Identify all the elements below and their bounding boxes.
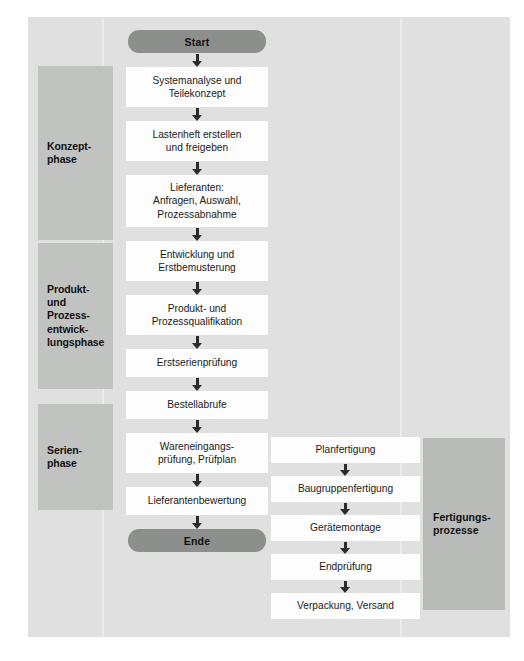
node-label: Wareneingangs- prüfung, Prüfplan xyxy=(158,440,236,467)
node-lieferantenbewertung: Lieferantenbewertung xyxy=(126,487,268,515)
node-entwicklung-erstbemusterung: Entwicklung und Erstbemusterung xyxy=(126,241,268,281)
node-lastenheft: Lastenheft erstellen und freigeben xyxy=(126,121,268,161)
node-label: Planfertigung xyxy=(315,443,375,456)
node-label: Bestellabrufe xyxy=(167,398,226,411)
phase-label-serien: Serien- phase xyxy=(47,444,82,470)
group-label-fertigungsprozesse: Fertigungs- prozesse xyxy=(433,511,491,537)
connector-n6-to-n7 xyxy=(192,378,203,391)
node-geraetemontage: Gerätemontage xyxy=(271,515,420,541)
node-wareneingangspruefung: Wareneingangs- prüfung, Prüfplan xyxy=(126,433,268,473)
node-produkt-prozessqualifikation: Produkt- und Prozessqualifikation xyxy=(126,295,268,335)
phase-band-serien: Serien- phase xyxy=(38,404,113,510)
node-label: Gerätemontage xyxy=(310,521,381,534)
group-band-fertigungsprozesse: Fertigungs- prozesse xyxy=(423,438,505,610)
node-label: Lastenheft erstellen und freigeben xyxy=(153,128,242,155)
phase-band-entwicklung: Produkt- und Prozess- entwick- lungsphas… xyxy=(38,243,113,389)
connector-start-to-n1 xyxy=(192,54,203,67)
node-label: Lieferantenbewertung xyxy=(148,494,247,507)
node-verpackung-versand: Verpackung, Versand xyxy=(271,593,420,619)
node-erstserienpruefung: Erstserienprüfung xyxy=(126,349,268,377)
node-systemanalyse: Systemanalyse und Teilekonzept xyxy=(126,67,268,107)
node-label: Erstserienprüfung xyxy=(157,356,237,369)
connector-p3-to-p4 xyxy=(340,542,351,554)
terminator-end: Ende xyxy=(128,529,266,552)
node-lieferanten: Lieferanten: Anfragen, Auswahl, Prozessa… xyxy=(126,175,268,227)
terminator-start: Start xyxy=(128,30,266,53)
phase-band-konzept: Konzept- phase xyxy=(38,66,113,240)
phase-label-konzept: Konzept- phase xyxy=(47,140,91,166)
phase-label-entwicklung: Produkt- und Prozess- entwick- lungsphas… xyxy=(47,283,104,349)
node-baugruppenfertigung: Baugruppenfertigung xyxy=(271,476,420,502)
connector-n1-to-n2 xyxy=(192,108,203,121)
node-label: Baugruppenfertigung xyxy=(298,482,393,495)
connector-n8-to-n9 xyxy=(192,474,203,487)
connector-p4-to-p5 xyxy=(340,581,351,593)
node-label: Lieferanten: Anfragen, Auswahl, Prozessa… xyxy=(153,181,241,221)
connector-n2-to-n3 xyxy=(192,162,203,175)
node-planfertigung: Planfertigung xyxy=(271,437,420,463)
node-endpruefung: Endprüfung xyxy=(271,554,420,580)
connector-n3-to-n4 xyxy=(192,228,203,241)
connector-p1-to-p2 xyxy=(340,464,351,476)
terminator-start-label: Start xyxy=(185,36,210,48)
paper-seam-right xyxy=(400,17,402,637)
node-label: Entwicklung und Erstbemusterung xyxy=(158,248,236,275)
node-label: Produkt- und Prozessqualifikation xyxy=(152,302,243,329)
node-label: Verpackung, Versand xyxy=(297,599,394,612)
connector-n7-to-n8 xyxy=(192,420,203,433)
connector-n9-to-end xyxy=(192,516,203,529)
connector-n4-to-n5 xyxy=(192,282,203,295)
connector-n5-to-n6 xyxy=(192,336,203,349)
terminator-end-label: Ende xyxy=(184,535,210,547)
connector-p2-to-p3 xyxy=(340,503,351,515)
node-label: Systemanalyse und Teilekonzept xyxy=(153,74,242,101)
node-bestellabrufe: Bestellabrufe xyxy=(126,391,268,419)
process-flow-diagram: Konzept- phase Produkt- und Prozess- ent… xyxy=(28,17,510,637)
node-label: Endprüfung xyxy=(319,560,372,573)
